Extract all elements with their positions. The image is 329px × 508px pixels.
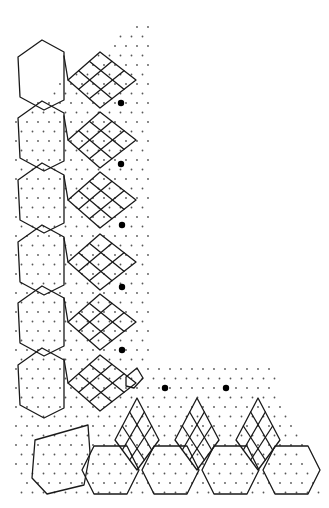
pin-icon bbox=[118, 100, 124, 106]
hexagon bbox=[18, 163, 64, 233]
pin-icon bbox=[223, 385, 229, 391]
fan-diamond bbox=[115, 398, 159, 470]
pattern-outline bbox=[18, 40, 320, 494]
hexagon bbox=[82, 446, 139, 494]
hexagon bbox=[18, 101, 64, 171]
fan-diamond bbox=[68, 234, 136, 290]
hexagon bbox=[18, 40, 64, 110]
hexagon bbox=[263, 446, 320, 494]
fan-diamond bbox=[68, 52, 136, 108]
pin-icon bbox=[119, 284, 125, 290]
pin-icon bbox=[119, 347, 125, 353]
pin-icon bbox=[118, 161, 124, 167]
pricking-grid-dots bbox=[15, 26, 319, 493]
hexagon bbox=[142, 446, 199, 494]
pin-icon bbox=[162, 385, 168, 391]
fan-diamond bbox=[175, 398, 219, 470]
pin-icon bbox=[119, 222, 125, 228]
fan-diamond bbox=[68, 294, 136, 350]
fan-diamond bbox=[68, 172, 136, 228]
hexagon bbox=[202, 446, 259, 494]
lace-pattern-canvas bbox=[0, 0, 329, 508]
hexagon bbox=[18, 225, 64, 295]
pin-markers bbox=[118, 100, 229, 391]
hexagon bbox=[18, 348, 64, 418]
corner-pentagon bbox=[32, 425, 90, 494]
lace-pricking-diagram bbox=[0, 0, 329, 508]
hexagon bbox=[18, 286, 64, 356]
fan-diamond bbox=[236, 398, 280, 470]
